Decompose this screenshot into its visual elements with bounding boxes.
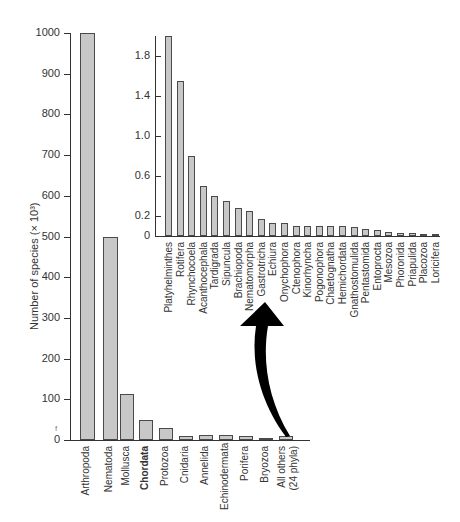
curved-arrow-icon [0, 0, 460, 522]
stray-glyph: f [55, 424, 57, 433]
